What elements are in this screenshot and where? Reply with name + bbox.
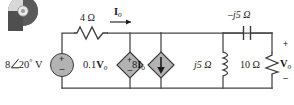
angle-glyph: [11, 58, 19, 69]
resistor-10-ohm-label: 10 Ω: [240, 60, 260, 70]
depv-subscript: o: [104, 63, 108, 72]
resistor-4-ohm-label: 4 Ω: [80, 13, 95, 23]
source-plus-sign: +: [59, 55, 64, 64]
output-plus-sign: +: [283, 40, 288, 49]
depi-subscript: o: [141, 63, 145, 72]
source-minus-sign: –: [60, 65, 65, 74]
dependent-current-source-symbol: [148, 52, 174, 78]
output-minus-sign: –: [283, 74, 288, 83]
capacitor-neg-j5-text: –j5 Ω: [228, 9, 251, 20]
source-unit: V: [35, 59, 43, 70]
disc-logo: [8, 0, 38, 31]
output-voltage-label: Vo: [280, 59, 291, 70]
dependent-voltage-source-label: 0.1Vo: [83, 60, 107, 71]
degree-symbol: °: [29, 58, 32, 67]
current-io-subscript: o: [118, 10, 122, 19]
depv-coefficient: 0.1: [83, 59, 96, 70]
source-magnitude: 8: [5, 59, 10, 70]
dependent-current-source-label: 8Io: [132, 60, 145, 71]
circuit-figure: 8 20° V + – 4 Ω Io 0.1Vo + – 8Io j5 Ω –j…: [0, 0, 294, 105]
depv-variable: V: [96, 59, 104, 70]
inductor-j5-symbol: [223, 52, 228, 76]
inductor-j5-text: j5 Ω: [194, 59, 212, 70]
inductor-j5-label: j5 Ω: [194, 60, 212, 70]
output-voltage-subscript: o: [288, 62, 292, 71]
current-io-arrow: [110, 19, 131, 24]
source-angle-value: 20: [19, 59, 30, 70]
current-io-label: Io: [114, 7, 122, 18]
resistor-10-ohm-symbol: [266, 52, 278, 76]
resistor-4-ohm-symbol: [74, 27, 108, 39]
capacitor-neg-j5-label: –j5 Ω: [228, 10, 251, 20]
source-label: 8 20° V: [5, 58, 43, 71]
output-voltage-symbol: V: [280, 58, 288, 69]
